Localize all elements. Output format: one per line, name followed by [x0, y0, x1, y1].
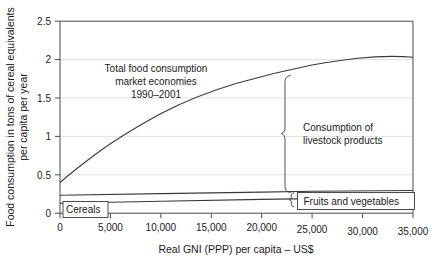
fruits-vegetables-label: Fruits and vegetables	[304, 196, 400, 207]
series-total-food-consumption	[60, 56, 413, 182]
x-tick-labels: 0 5,000 10,000 15,000 20,000 25,000 30,0…	[57, 222, 429, 237]
y-tick-labels: 2.5 2 1.5 1 0.5 0	[37, 16, 51, 219]
y-tick-label: 2	[45, 54, 51, 65]
x-axis-ticks	[60, 213, 413, 218]
y-tick-label: 0	[45, 208, 51, 219]
fruits-vegetables-brace	[289, 193, 294, 207]
x-tick-label: 10,000	[146, 222, 177, 233]
y-axis-title-line2: per capita per year	[17, 73, 29, 161]
x-tick-label: 5,000	[98, 222, 123, 233]
y-tick-label: 0.5	[37, 170, 51, 181]
y-axis-title: Food consumption in tons of cereal equiv…	[4, 7, 29, 226]
x-axis-title: Real GNI (PPP) per capita – US$	[158, 243, 313, 255]
cereals-label: Cereals	[66, 204, 100, 215]
annotation-line: Consumption of	[303, 122, 373, 133]
y-axis-ticks	[55, 21, 60, 213]
annotation-line: Total food consumption	[105, 63, 208, 74]
gridlines	[60, 60, 413, 175]
plot-frame	[60, 21, 413, 213]
x-tick-label: 20,000	[246, 222, 277, 233]
annotation-cereals: Cereals	[63, 202, 108, 218]
annotation-line: market economies	[115, 76, 197, 87]
chart-canvas: 2.5 2 1.5 1 0.5 0 0 5,000 10,000 15,000 …	[0, 0, 437, 263]
chart-figure: 2.5 2 1.5 1 0.5 0 0 5,000 10,000 15,000 …	[0, 0, 437, 263]
annotation-line: 1990–2001	[131, 89, 181, 100]
annotation-line: livestock products	[303, 135, 382, 146]
y-tick-label: 1	[45, 131, 51, 142]
x-tick-label: 30,000	[347, 226, 378, 237]
annotation-livestock-products: Consumption of livestock products	[303, 122, 382, 146]
x-tick-label: 35,000	[398, 226, 429, 237]
annotation-total-food-consumption: Total food consumption market economies …	[105, 63, 208, 100]
y-tick-label: 1.5	[37, 93, 51, 104]
y-axis-title-line1: Food consumption in tons of cereal equiv…	[4, 7, 16, 226]
x-tick-label: 0	[57, 222, 63, 233]
x-tick-label: 25,000	[297, 224, 328, 235]
annotation-fruits-and-vegetables: Fruits and vegetables	[298, 193, 415, 210]
y-tick-label: 2.5	[37, 16, 51, 27]
x-tick-label: 15,000	[196, 222, 227, 233]
